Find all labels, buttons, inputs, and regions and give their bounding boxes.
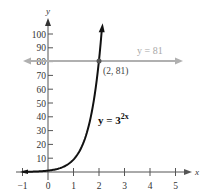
y-ticks: 102030405060708090100 xyxy=(32,30,53,164)
horizontal-line-label: y = 81 xyxy=(137,45,163,56)
exponential-curve xyxy=(23,31,102,172)
x-tick-label: 0 xyxy=(46,181,51,191)
y-tick-label: 70 xyxy=(37,71,47,81)
curve-label-base: y = 3 xyxy=(98,114,121,126)
y-tick-label: 90 xyxy=(37,43,47,53)
x-tick-label: −1 xyxy=(17,181,27,191)
y-tick-label: 60 xyxy=(37,85,47,95)
x-axis-label: x xyxy=(194,167,199,177)
x-tick-label: 1 xyxy=(71,181,76,191)
y-tick-label: 50 xyxy=(37,99,47,109)
x-tick-label: 5 xyxy=(173,181,178,191)
curve-label: y = 32x xyxy=(98,112,129,126)
y-tick-label: 100 xyxy=(32,30,47,40)
chart-figure: −1012345 102030405060708090100 x y y = 8… xyxy=(0,0,208,196)
curve-arrow-left-icon xyxy=(20,170,28,175)
x-tick-label: 4 xyxy=(148,181,153,191)
y-tick-label: 40 xyxy=(37,112,47,122)
y-tick-label: 20 xyxy=(37,140,47,150)
exponential-plot: −1012345 102030405060708090100 x y y = 8… xyxy=(0,0,208,196)
y-tick-label: 30 xyxy=(37,126,47,136)
y-axis-label: y xyxy=(45,6,50,16)
x-tick-label: 2 xyxy=(97,181,102,191)
horizontal-line-y81 xyxy=(23,58,183,65)
curve-label-exponent: 2x xyxy=(121,112,129,121)
y-tick-label: 10 xyxy=(37,154,47,164)
y-tick-label: 80 xyxy=(37,57,47,67)
curve-arrow-top-icon xyxy=(99,23,105,32)
intersection-point-label: (2, 81) xyxy=(103,66,128,77)
intersection-point xyxy=(97,59,102,64)
x-tick-label: 3 xyxy=(122,181,127,191)
